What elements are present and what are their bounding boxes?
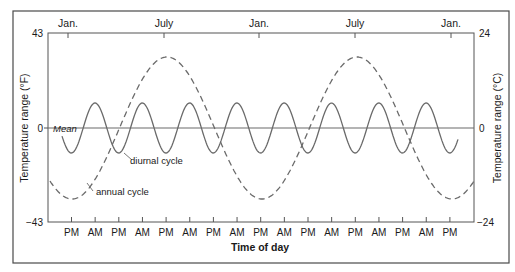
- y-left-min: −43: [26, 217, 43, 228]
- top-tick-label: July: [155, 17, 174, 29]
- y-left-max: 43: [32, 28, 44, 39]
- outer-frame: [13, 11, 509, 263]
- bottom-tick-label: AM: [277, 227, 292, 238]
- bottom-tick-label: AM: [419, 227, 434, 238]
- top-axis-ticks: Jan.JulyJan.JulyJan.: [58, 17, 461, 38]
- top-tick-label: July: [346, 17, 365, 29]
- top-tick-label: Jan.: [58, 17, 78, 29]
- bottom-tick-label: AM: [88, 227, 103, 238]
- bottom-tick-label: PM: [64, 227, 79, 238]
- annual-label: annual cycle: [96, 186, 149, 197]
- bottom-tick-label: AM: [135, 227, 150, 238]
- mean-label: Mean: [53, 123, 77, 134]
- diurnal-label: diurnal cycle: [130, 155, 183, 166]
- bottom-tick-label: PM: [206, 227, 221, 238]
- bottom-tick-label: PM: [395, 227, 410, 238]
- x-axis-title: Time of day: [231, 241, 289, 253]
- bottom-tick-label: AM: [371, 227, 386, 238]
- bottom-tick-label: PM: [111, 227, 126, 238]
- top-tick-label: Jan.: [249, 17, 269, 29]
- y-left-title: Temperature range (°F): [18, 73, 30, 182]
- y-left-zero: 0: [37, 123, 43, 134]
- y-right-title: Temperature range (°C): [491, 73, 503, 183]
- bottom-tick-label: AM: [324, 227, 339, 238]
- y-right-zero: 0: [479, 123, 485, 134]
- chart: Jan.JulyJan.JulyJan. PMAMPMAMPMAMPMAMPMA…: [0, 0, 515, 272]
- y-right-max: 24: [479, 28, 491, 39]
- bottom-tick-label: PM: [301, 227, 316, 238]
- bottom-tick-label: PM: [159, 227, 174, 238]
- bottom-axis-ticks: PMAMPMAMPMAMPMAMPMAMPMAMPMAMPMAMPM: [64, 217, 457, 238]
- bottom-tick-label: PM: [442, 227, 457, 238]
- bottom-tick-label: AM: [182, 227, 197, 238]
- y-right-min: −24: [477, 217, 494, 228]
- bottom-tick-label: PM: [348, 227, 363, 238]
- bottom-tick-label: AM: [230, 227, 245, 238]
- top-tick-label: Jan.: [441, 17, 461, 29]
- bottom-tick-label: PM: [253, 227, 268, 238]
